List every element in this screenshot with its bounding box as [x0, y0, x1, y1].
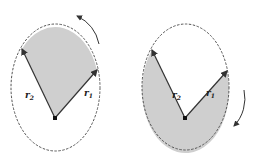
right-focus-dot — [183, 116, 187, 120]
orbit-diagram: r2 r1 r2 r1 — [0, 0, 257, 163]
left-figure: r2 r1 — [11, 16, 100, 151]
right-r2-label: r2 — [172, 90, 181, 101]
right-figure: r2 r1 — [142, 24, 245, 153]
right-rotation-arrow-icon — [234, 90, 245, 126]
right-shaded-sector — [142, 50, 229, 153]
left-focus-dot — [53, 116, 57, 120]
left-r1-label: r1 — [84, 88, 93, 99]
left-r2-label: r2 — [25, 90, 34, 101]
